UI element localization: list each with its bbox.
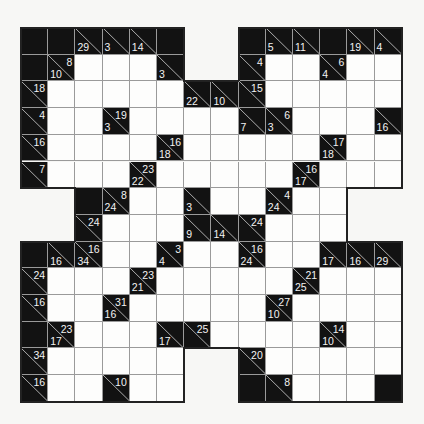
- entry-cell[interactable]: [48, 162, 75, 189]
- entry-cell[interactable]: [211, 295, 238, 322]
- entry-cell[interactable]: [347, 108, 374, 135]
- entry-cell[interactable]: [320, 375, 347, 402]
- entry-cell[interactable]: [75, 295, 102, 322]
- entry-cell[interactable]: [130, 242, 157, 269]
- entry-cell[interactable]: [266, 81, 293, 108]
- entry-cell[interactable]: [375, 55, 402, 82]
- entry-cell[interactable]: [347, 295, 374, 322]
- entry-cell[interactable]: [184, 295, 211, 322]
- entry-cell[interactable]: [48, 348, 75, 375]
- entry-cell[interactable]: [184, 242, 211, 269]
- entry-cell[interactable]: [184, 268, 211, 295]
- entry-cell[interactable]: [184, 162, 211, 189]
- entry-cell[interactable]: [347, 81, 374, 108]
- entry-cell[interactable]: [293, 135, 320, 162]
- entry-cell[interactable]: [320, 348, 347, 375]
- entry-cell[interactable]: [293, 81, 320, 108]
- entry-cell[interactable]: [320, 295, 347, 322]
- entry-cell[interactable]: [75, 81, 102, 108]
- entry-cell[interactable]: [48, 81, 75, 108]
- entry-cell[interactable]: [293, 55, 320, 82]
- entry-cell[interactable]: [157, 188, 184, 215]
- entry-cell[interactable]: [239, 268, 266, 295]
- entry-cell[interactable]: [75, 375, 102, 402]
- entry-cell[interactable]: [103, 215, 130, 242]
- entry-cell[interactable]: [266, 268, 293, 295]
- entry-cell[interactable]: [130, 81, 157, 108]
- entry-cell[interactable]: [184, 135, 211, 162]
- entry-cell[interactable]: [375, 348, 402, 375]
- entry-cell[interactable]: [293, 242, 320, 269]
- entry-cell[interactable]: [130, 375, 157, 402]
- entry-cell[interactable]: [157, 268, 184, 295]
- entry-cell[interactable]: [239, 135, 266, 162]
- entry-cell[interactable]: [320, 81, 347, 108]
- entry-cell[interactable]: [211, 108, 238, 135]
- entry-cell[interactable]: [293, 188, 320, 215]
- entry-cell[interactable]: [239, 188, 266, 215]
- entry-cell[interactable]: [211, 135, 238, 162]
- entry-cell[interactable]: [48, 295, 75, 322]
- entry-cell[interactable]: [375, 81, 402, 108]
- entry-cell[interactable]: [293, 108, 320, 135]
- entry-cell[interactable]: [103, 162, 130, 189]
- entry-cell[interactable]: [320, 108, 347, 135]
- entry-cell[interactable]: [293, 295, 320, 322]
- entry-cell[interactable]: [375, 135, 402, 162]
- entry-cell[interactable]: [266, 162, 293, 189]
- entry-cell[interactable]: [103, 55, 130, 82]
- entry-cell[interactable]: [347, 375, 374, 402]
- entry-cell[interactable]: [375, 268, 402, 295]
- entry-cell[interactable]: [48, 135, 75, 162]
- entry-cell[interactable]: [184, 108, 211, 135]
- entry-cell[interactable]: [75, 55, 102, 82]
- entry-cell[interactable]: [211, 242, 238, 269]
- entry-cell[interactable]: [130, 322, 157, 349]
- entry-cell[interactable]: [130, 55, 157, 82]
- entry-cell[interactable]: [266, 322, 293, 349]
- entry-cell[interactable]: [293, 322, 320, 349]
- entry-cell[interactable]: [266, 242, 293, 269]
- entry-cell[interactable]: [103, 135, 130, 162]
- entry-cell[interactable]: [130, 215, 157, 242]
- entry-cell[interactable]: [347, 55, 374, 82]
- entry-cell[interactable]: [211, 322, 238, 349]
- entry-cell[interactable]: [266, 215, 293, 242]
- entry-cell[interactable]: [157, 295, 184, 322]
- entry-cell[interactable]: [75, 108, 102, 135]
- entry-cell[interactable]: [293, 215, 320, 242]
- entry-cell[interactable]: [103, 348, 130, 375]
- entry-cell[interactable]: [293, 375, 320, 402]
- entry-cell[interactable]: [347, 348, 374, 375]
- entry-cell[interactable]: [103, 242, 130, 269]
- entry-cell[interactable]: [375, 322, 402, 349]
- entry-cell[interactable]: [320, 268, 347, 295]
- entry-cell[interactable]: [130, 295, 157, 322]
- entry-cell[interactable]: [157, 215, 184, 242]
- entry-cell[interactable]: [239, 322, 266, 349]
- entry-cell[interactable]: [130, 188, 157, 215]
- entry-cell[interactable]: [320, 162, 347, 189]
- entry-cell[interactable]: [157, 162, 184, 189]
- entry-cell[interactable]: [48, 375, 75, 402]
- entry-cell[interactable]: [320, 188, 347, 215]
- entry-cell[interactable]: [347, 268, 374, 295]
- entry-cell[interactable]: [75, 268, 102, 295]
- entry-cell[interactable]: [375, 295, 402, 322]
- entry-cell[interactable]: [211, 162, 238, 189]
- entry-cell[interactable]: [48, 108, 75, 135]
- entry-cell[interactable]: [239, 162, 266, 189]
- entry-cell[interactable]: [75, 162, 102, 189]
- entry-cell[interactable]: [347, 135, 374, 162]
- entry-cell[interactable]: [75, 348, 102, 375]
- entry-cell[interactable]: [130, 135, 157, 162]
- entry-cell[interactable]: [347, 322, 374, 349]
- entry-cell[interactable]: [103, 322, 130, 349]
- entry-cell[interactable]: [266, 55, 293, 82]
- entry-cell[interactable]: [130, 108, 157, 135]
- entry-cell[interactable]: [320, 215, 347, 242]
- entry-cell[interactable]: [103, 81, 130, 108]
- entry-cell[interactable]: [75, 322, 102, 349]
- entry-cell[interactable]: [266, 348, 293, 375]
- entry-cell[interactable]: [157, 348, 184, 375]
